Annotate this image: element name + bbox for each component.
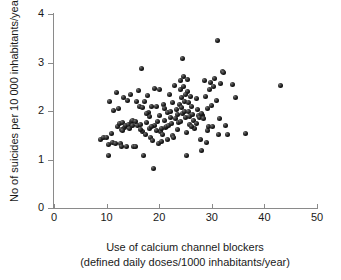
data-point bbox=[216, 132, 221, 137]
data-point bbox=[215, 38, 220, 43]
data-point bbox=[157, 87, 162, 92]
data-point bbox=[160, 132, 165, 137]
data-point bbox=[210, 124, 215, 129]
data-point bbox=[109, 131, 114, 136]
x-tick-label: 50 bbox=[300, 212, 334, 223]
data-point bbox=[151, 166, 156, 171]
data-point bbox=[144, 111, 149, 116]
data-point bbox=[198, 137, 203, 142]
data-point bbox=[107, 99, 112, 104]
data-point bbox=[170, 100, 175, 105]
data-point bbox=[154, 128, 159, 133]
y-tick-mark bbox=[48, 14, 53, 15]
data-point bbox=[203, 94, 208, 99]
data-point bbox=[180, 56, 185, 61]
plot-area bbox=[54, 14, 317, 208]
data-point bbox=[159, 139, 164, 144]
data-point bbox=[138, 122, 143, 127]
data-point bbox=[212, 76, 217, 81]
data-point bbox=[199, 148, 204, 153]
data-point bbox=[175, 127, 180, 132]
scatter-plot-figure: No of suicides per 10 000 inhabitants/ye… bbox=[0, 0, 341, 280]
data-point bbox=[116, 106, 121, 111]
data-point bbox=[136, 88, 141, 93]
data-point bbox=[130, 123, 135, 128]
data-point bbox=[184, 153, 189, 158]
data-point bbox=[133, 144, 138, 149]
data-point bbox=[119, 144, 124, 149]
y-tick-mark bbox=[48, 208, 53, 209]
x-tick-label: 0 bbox=[37, 212, 71, 223]
y-tick-label: 2 bbox=[22, 105, 44, 116]
data-point bbox=[133, 119, 138, 124]
data-point bbox=[150, 138, 155, 143]
data-point bbox=[124, 144, 129, 149]
data-point bbox=[167, 92, 172, 97]
data-point bbox=[205, 106, 210, 111]
data-point bbox=[174, 107, 179, 112]
y-tick-label: 3 bbox=[22, 57, 44, 68]
data-point bbox=[211, 84, 216, 89]
data-point bbox=[178, 78, 183, 83]
data-point bbox=[178, 119, 183, 124]
data-point bbox=[194, 96, 199, 101]
data-point bbox=[202, 78, 207, 83]
x-axis-label-line2: (defined daily doses/1000 inhabitants/ye… bbox=[40, 255, 330, 270]
data-point bbox=[120, 128, 125, 133]
data-point bbox=[201, 116, 206, 121]
data-point bbox=[140, 105, 145, 110]
data-point bbox=[188, 94, 193, 99]
data-point bbox=[225, 132, 230, 137]
y-tick-mark bbox=[48, 63, 53, 64]
data-point bbox=[204, 140, 209, 145]
data-point bbox=[221, 70, 226, 75]
x-tick-mark bbox=[317, 204, 318, 209]
data-point bbox=[125, 98, 130, 103]
data-point bbox=[190, 112, 195, 117]
data-point bbox=[143, 132, 148, 137]
x-tick-label: 20 bbox=[142, 212, 176, 223]
data-point bbox=[185, 77, 190, 82]
data-point bbox=[243, 131, 248, 136]
x-axis-label: Use of calcium channel blockers (defined… bbox=[40, 240, 330, 270]
data-point bbox=[209, 103, 214, 108]
data-point bbox=[189, 124, 194, 129]
y-tick-mark bbox=[48, 160, 53, 161]
data-point bbox=[218, 81, 223, 86]
data-point bbox=[128, 92, 133, 97]
data-point bbox=[149, 124, 154, 129]
data-point bbox=[113, 141, 118, 146]
data-point bbox=[165, 137, 170, 142]
data-point bbox=[139, 66, 144, 71]
data-point bbox=[145, 93, 150, 98]
data-point bbox=[189, 104, 194, 109]
y-tick-label: 4 bbox=[22, 8, 44, 19]
data-point bbox=[233, 95, 238, 100]
data-point bbox=[141, 153, 146, 158]
data-point bbox=[106, 153, 111, 158]
data-point bbox=[157, 113, 162, 118]
data-point bbox=[223, 123, 228, 128]
data-point bbox=[194, 121, 199, 126]
data-point bbox=[134, 99, 139, 104]
data-point bbox=[217, 116, 222, 121]
data-point bbox=[154, 104, 159, 109]
data-point bbox=[114, 90, 119, 95]
y-axis-label: No of suicides per 10 000 inhabitants/ye… bbox=[8, 2, 20, 202]
data-point bbox=[230, 82, 235, 87]
x-tick-label: 10 bbox=[90, 212, 124, 223]
x-axis-line bbox=[53, 208, 318, 209]
y-tick-mark bbox=[48, 111, 53, 112]
data-point bbox=[278, 83, 283, 88]
data-point bbox=[104, 135, 109, 140]
x-axis-label-line1: Use of calcium channel blockers bbox=[40, 240, 330, 255]
data-point bbox=[168, 109, 173, 114]
data-point bbox=[142, 99, 147, 104]
data-point bbox=[111, 108, 116, 113]
data-point bbox=[205, 128, 210, 133]
x-tick-label: 40 bbox=[247, 212, 281, 223]
y-tick-label: 1 bbox=[22, 154, 44, 165]
data-point bbox=[172, 83, 177, 88]
data-point bbox=[169, 121, 174, 126]
data-point bbox=[184, 130, 189, 135]
